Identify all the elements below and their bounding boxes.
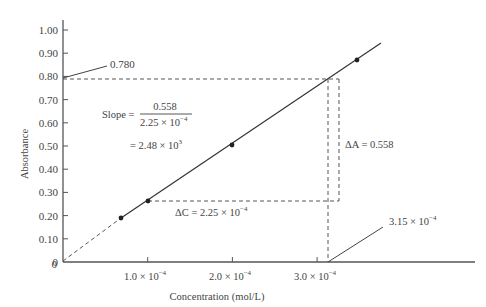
- x-read-label: 3.15 × 10−4: [389, 214, 437, 227]
- svg-text:0.10: 0.10: [39, 233, 59, 245]
- svg-text:0.20: 0.20: [39, 210, 59, 222]
- svg-text:3.0 × 10−4: 3.0 × 10−4: [294, 269, 337, 282]
- svg-text:0.70: 0.70: [39, 94, 59, 106]
- svg-text:1.00: 1.00: [39, 24, 59, 36]
- svg-text:= 2.48 × 103: = 2.48 × 103: [130, 138, 183, 151]
- delta-a-label: ΔA = 0.558: [345, 139, 394, 150]
- delta-c-label: ΔC = 2.25 × 10−4: [175, 205, 248, 218]
- svg-text:0.50: 0.50: [39, 140, 59, 152]
- svg-text:0.40: 0.40: [39, 163, 59, 175]
- slope-formula: Slope = 0.558 2.25 × 10−4 = 2.48 × 103: [102, 101, 192, 151]
- svg-text:0.80: 0.80: [39, 70, 59, 82]
- svg-text:0.558: 0.558: [153, 101, 177, 112]
- svg-text:2.25 × 10−4: 2.25 × 10−4: [140, 115, 188, 128]
- y-ticks: [63, 30, 68, 239]
- x-tick-labels: 1.0 × 10−4 2.0 × 10−4 3.0 × 10−4: [124, 269, 337, 282]
- y-axis-title: Absorbance: [19, 129, 30, 179]
- svg-text:0.30: 0.30: [39, 186, 59, 198]
- fit-line: [121, 43, 381, 218]
- x-ticks: [148, 257, 317, 262]
- intercept-leader: [63, 66, 107, 78]
- svg-text:0.60: 0.60: [39, 117, 59, 129]
- calibration-chart: 0 0.10 0.20 0.30 0.40 0.50 0.60 0.70 0.8…: [0, 0, 486, 307]
- x-axis-title: Concentration (mol/L): [170, 291, 265, 303]
- svg-text:0.90: 0.90: [39, 47, 59, 59]
- y-tick-labels: 0 0.10 0.20 0.30 0.40 0.50 0.60 0.70 0.8…: [39, 24, 59, 268]
- svg-text:Slope =: Slope =: [102, 109, 135, 120]
- intercept-label: 0.780: [110, 58, 135, 70]
- construction-lines: [63, 79, 339, 262]
- svg-text:2.0 × 10−4: 2.0 × 10−4: [209, 269, 252, 282]
- origin-label: 0: [52, 258, 58, 270]
- x-read-leader: [328, 227, 383, 262]
- svg-text:1.0 × 10−4: 1.0 × 10−4: [124, 269, 167, 282]
